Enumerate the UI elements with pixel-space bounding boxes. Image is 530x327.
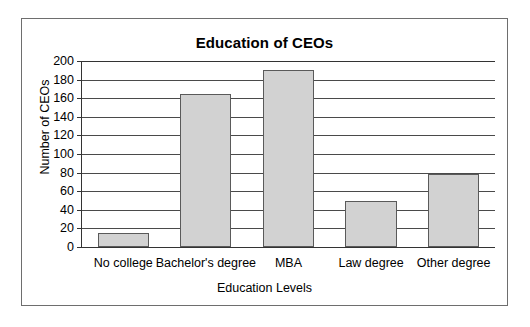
x-axis-title: Education Levels xyxy=(22,281,507,295)
bar xyxy=(263,70,314,247)
y-tick-label: 160 xyxy=(34,91,74,105)
y-axis-title: Number of CEOs xyxy=(38,47,52,207)
y-tick-label: 120 xyxy=(34,128,74,142)
bars-layer xyxy=(82,61,495,247)
x-tick-label: Bachelor's degree xyxy=(156,256,256,270)
bar xyxy=(428,174,479,247)
bar xyxy=(345,201,396,248)
x-tick-label: MBA xyxy=(275,256,302,270)
plot-area: 020406080100120140160180200 No collegeBa… xyxy=(81,61,495,248)
chart-figure: Education of CEOs Number of CEOs 0204060… xyxy=(21,18,508,306)
bar xyxy=(98,233,149,247)
y-tick-label: 40 xyxy=(34,203,74,217)
bar xyxy=(180,94,231,247)
y-tick-label: 0 xyxy=(34,240,74,254)
y-tick-label: 140 xyxy=(34,110,74,124)
y-tick-label: 180 xyxy=(34,73,74,87)
y-tick-label: 80 xyxy=(34,166,74,180)
y-tick-label: 20 xyxy=(34,221,74,235)
chart-title: Education of CEOs xyxy=(22,34,507,51)
y-tick-label: 100 xyxy=(34,147,74,161)
x-tick-label: No college xyxy=(94,256,153,270)
y-tick-label: 200 xyxy=(34,54,74,68)
y-tick-mark xyxy=(77,247,82,248)
x-tick-label: Other degree xyxy=(417,256,491,270)
x-tick-label: Law degree xyxy=(338,256,403,270)
y-tick-label: 60 xyxy=(34,184,74,198)
